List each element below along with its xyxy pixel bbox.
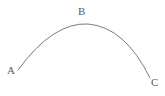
arc-path-a-b-c <box>18 24 150 78</box>
point-label-b: B <box>78 6 85 17</box>
arc-diagram-figure: A B C <box>0 0 165 96</box>
point-label-a: A <box>7 65 15 76</box>
point-label-c: C <box>151 77 158 88</box>
